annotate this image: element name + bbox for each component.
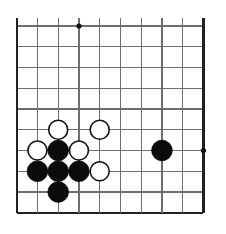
- black-stone[interactable]: [69, 161, 90, 182]
- white-stone[interactable]: [69, 141, 88, 160]
- black-stone[interactable]: [48, 161, 69, 182]
- star-point-icon: [201, 148, 206, 153]
- go-board-figure: [0, 0, 226, 234]
- black-stone[interactable]: [27, 161, 48, 182]
- white-stone[interactable]: [90, 120, 109, 139]
- white-stone[interactable]: [90, 162, 109, 181]
- white-stone[interactable]: [49, 120, 68, 139]
- black-stone[interactable]: [152, 140, 173, 161]
- black-stone[interactable]: [48, 182, 69, 203]
- go-board[interactable]: [0, 0, 226, 234]
- white-stone[interactable]: [28, 141, 47, 160]
- star-point-icon: [76, 23, 81, 28]
- black-stone[interactable]: [48, 140, 69, 161]
- board-grid: [17, 18, 204, 213]
